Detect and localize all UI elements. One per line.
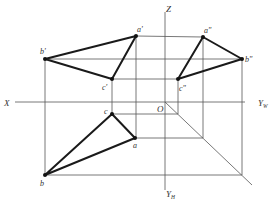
point-b-top: [43, 173, 47, 177]
label-b-front: b': [40, 47, 46, 56]
label-a-front: a': [137, 25, 143, 34]
label-a-side: a": [204, 26, 212, 35]
label-a-top: a: [133, 141, 137, 150]
x-axis-label: X: [3, 98, 10, 108]
origin-label: O: [157, 104, 164, 114]
projection-diagram: a' b' c' a" b" c" a b c X Z O YW YH: [0, 0, 276, 205]
point-c-front: [110, 77, 114, 81]
point-a-side: [201, 35, 205, 39]
projection-line-a-horizontal: [136, 36, 203, 37]
point-b-front: [43, 57, 47, 61]
label-b-top: b: [40, 179, 44, 188]
yh-axis-label: YH: [166, 189, 176, 200]
front-view-triangle: [45, 36, 136, 79]
diagonal-45-line: [165, 102, 252, 185]
point-c-side: [176, 77, 180, 81]
label-c-front: c': [102, 83, 108, 92]
point-b-side: [240, 57, 244, 61]
point-a-top: [133, 136, 137, 140]
side-view-triangle: [178, 37, 242, 79]
label-b-side: b": [245, 55, 253, 64]
point-c-top: [110, 112, 114, 116]
top-view-triangle: [45, 114, 135, 175]
z-axis-label: Z: [166, 4, 172, 14]
yw-axis-label: YW: [258, 98, 268, 109]
label-c-top: c: [104, 107, 108, 116]
label-c-side: c": [179, 84, 187, 93]
point-a-front: [134, 34, 138, 38]
